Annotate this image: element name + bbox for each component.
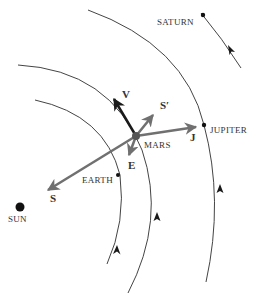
earth-icon: [116, 173, 120, 177]
vector-s-label: S: [50, 192, 56, 204]
sun-icon: [16, 203, 25, 212]
jupiter-label: JUPITER: [210, 125, 247, 135]
sun-label: SUN: [8, 214, 27, 224]
jupiter-orbit-direction-icon: [217, 184, 224, 193]
solar-system-diagram: SUN EARTH MARS JUPITER SATURN V S S′ E J: [0, 0, 262, 295]
saturn-orbit: [201, 13, 241, 68]
vector-s-prime-label: S′: [160, 99, 169, 111]
vector-v: [114, 99, 136, 136]
vector-j-label: J: [190, 131, 196, 143]
vector-e-label: E: [128, 159, 135, 171]
mars-label: MARS: [144, 140, 171, 150]
saturn-icon: [201, 13, 205, 17]
mars-orbit-direction-icon: [154, 212, 161, 221]
mars-icon: [132, 132, 140, 140]
vector-v-label: V: [122, 88, 130, 100]
saturn-label: SATURN: [157, 17, 194, 27]
vector-j: [136, 127, 196, 136]
jupiter-icon: [202, 123, 206, 127]
earth-label: EARTH: [82, 175, 113, 185]
